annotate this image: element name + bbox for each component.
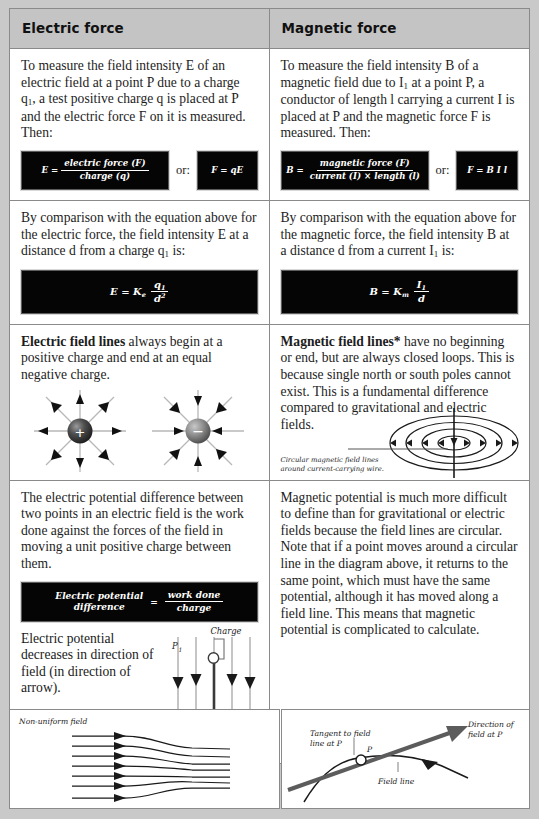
magnetic-field-caption-block: Circular magnetic field lines around cur…: [281, 456, 401, 473]
equation-row-electric-definition: E = electric force (F) charge (q) or: F …: [21, 151, 258, 190]
equation-potential-label-line2: difference: [74, 602, 125, 613]
equation-box-electric-field-definition: E = electric force (F) charge (q): [21, 151, 169, 190]
equation-box-magnetic-force-alt: F = B I l: [456, 151, 518, 190]
caption-leader-line: [348, 447, 448, 451]
or-label-electric: or:: [169, 163, 197, 178]
header-title-magnetic: Magnetic force: [282, 20, 519, 36]
paragraph-electric-potential-decrease: Electric potential decreases in directio…: [21, 631, 164, 697]
label-direction-line1: Direction of: [467, 720, 515, 729]
cell-electric-field-lines: Electric field lines always begin at a p…: [10, 325, 270, 480]
lead-magnetic-field-lines: Magnetic field lines*: [281, 334, 401, 349]
header-cell-magnetic: Magnetic force: [270, 9, 530, 48]
equation-box-magnetic-distance: B = Km I1 d: [281, 270, 519, 314]
point-p-marker: [356, 755, 366, 765]
panel-tangent-field-line: Tangent to field line at P P Field line …: [281, 709, 530, 809]
page-canvas: Electric force Magnetic force To measure…: [0, 0, 539, 819]
cell-magnetic-definition: To measure the field intensity B of a ma…: [270, 49, 530, 200]
equation-denominator-electric: charge (q): [77, 171, 133, 182]
cell-magnetic-distance: By comparison with the equation above fo…: [270, 201, 530, 324]
equation-potential-numerator: work done: [165, 590, 223, 602]
equation-denominator-magnetic: current (I) × length (l): [307, 171, 423, 182]
or-label-magnetic: or:: [429, 163, 457, 178]
negative-charge-field-diagram: −: [144, 388, 252, 474]
table-row: Electric field lines always begin at a p…: [10, 324, 529, 480]
equation-lhs-electric-distance: E = Ke: [110, 286, 146, 297]
caption-non-uniform-field: Non-uniform field: [19, 717, 87, 727]
magnetic-field-caption: Circular magnetic field lines around cur…: [281, 456, 401, 473]
equation-denominator-electric-distance: d2: [151, 292, 169, 304]
cell-electric-definition: To measure the field intensity E of an e…: [10, 49, 270, 200]
charge-marker: [208, 652, 218, 662]
svg-text:1: 1: [178, 646, 182, 653]
label-direction-line2: field at P: [467, 730, 503, 739]
equation-potential-denominator: charge: [174, 602, 215, 613]
paragraph-magnetic-definition: To measure the field intensity B of a ma…: [281, 58, 519, 142]
positive-charge-field-diagram: +: [26, 388, 134, 474]
equation-box-magnetic-field-definition: B = magnetic force (F) current (I) × len…: [281, 151, 429, 190]
equation-box-electric-force-alt: F = qE: [197, 151, 258, 190]
panel-non-uniform-field: Non-uniform field: [9, 709, 280, 809]
label-charge: Charge: [210, 626, 241, 636]
equation-denominator-magnetic-distance: d: [415, 292, 428, 304]
equation-lhs-magnetic-distance: B = Km: [369, 286, 408, 297]
equation-numerator-electric: electric force (F): [61, 159, 148, 171]
paragraph-magnetic-distance: By comparison with the equation above fo…: [281, 210, 519, 261]
header-title-electric: Electric force: [22, 20, 258, 36]
header-cell-electric: Electric force: [10, 9, 270, 48]
paragraph-electric-distance: By comparison with the equation above fo…: [21, 210, 258, 261]
positive-charge-symbol: +: [75, 424, 86, 439]
label-field-line: Field line: [377, 777, 415, 786]
equation-box-electric-potential: Electric potential difference = work don…: [21, 582, 258, 622]
label-p1: P: [171, 641, 178, 651]
label-tangent-line1: Tangent to field: [310, 729, 371, 738]
paragraph-electric-field-lines: Electric field lines always begin at a p…: [21, 334, 258, 384]
bottom-panels: Non-uniform field: [9, 709, 530, 809]
paragraph-magnetic-potential: Magnetic potential is much more difficul…: [281, 490, 519, 639]
tangent-field-line-diagram: Tangent to field line at P P Field line …: [282, 710, 529, 808]
equation-potential-label-line1: Electric potential: [55, 591, 143, 602]
table-row: By comparison with the equation above fo…: [10, 200, 529, 324]
paragraph-electric-potential: The electric potential difference betwee…: [21, 490, 258, 573]
table-row: To measure the field intensity E of an e…: [10, 48, 529, 200]
paragraph-electric-definition: To measure the field intensity E of an e…: [21, 58, 258, 142]
equation-lhs-electric: E =: [41, 165, 58, 175]
equation-row-electric-distance: E = Ke q1 d2: [21, 270, 258, 314]
electric-field-line-diagrams: +: [21, 388, 258, 474]
paragraph-magnetic-field-lines: Magnetic field lines* have no beginning …: [281, 334, 519, 434]
comparison-table: Electric force Magnetic force To measure…: [9, 8, 530, 764]
equation-row-magnetic-definition: B = magnetic force (F) current (I) × len…: [281, 151, 519, 190]
equation-numerator-magnetic-distance: I1: [414, 279, 429, 292]
equation-numerator-electric-distance: q1: [151, 279, 169, 292]
equation-numerator-magnetic: magnetic force (F): [317, 159, 413, 171]
equation-box-electric-distance: E = Ke q1 d2: [21, 270, 258, 314]
equation-potential-equals: =: [146, 597, 162, 607]
equation-row-electric-potential: Electric potential difference = work don…: [21, 582, 258, 622]
cell-magnetic-field-lines: Magnetic field lines* have no beginning …: [270, 325, 530, 480]
equation-alt-electric: F = qE: [211, 165, 243, 175]
cell-electric-distance: By comparison with the equation above fo…: [10, 201, 270, 324]
equation-alt-magnetic: F = B I l: [467, 165, 507, 175]
negative-charge-symbol: −: [193, 423, 205, 439]
label-point-p: P: [366, 745, 373, 754]
lead-electric-field-lines: Electric field lines: [21, 334, 125, 349]
equation-lhs-magnetic: B =: [286, 165, 303, 175]
label-tangent-line2: line at P: [310, 739, 343, 748]
table-header-row: Electric force Magnetic force: [10, 9, 529, 48]
non-uniform-field-diagram: [62, 730, 262, 806]
equation-row-magnetic-distance: B = Km I1 d: [281, 270, 519, 314]
